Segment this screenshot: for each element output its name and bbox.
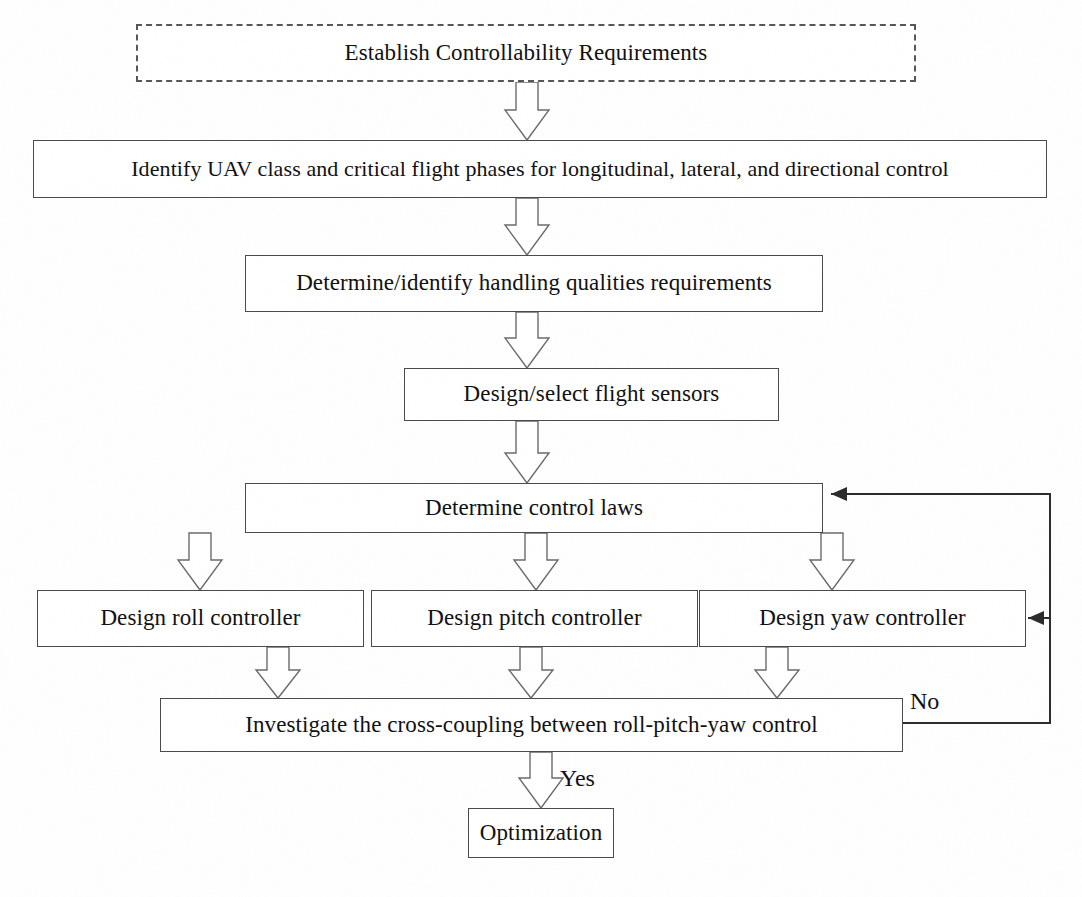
- node-label-identify: Identify UAV class and critical flight p…: [125, 156, 955, 181]
- node-label-investigate: Investigate the cross-coupling between r…: [239, 712, 824, 738]
- arrow-sensors-controllaws: [505, 421, 549, 483]
- node-identify: Identify UAV class and critical flight p…: [33, 140, 1047, 198]
- node-pitch: Design pitch controller: [371, 590, 698, 647]
- node-establish: Establish Controllability Requirements: [136, 24, 916, 82]
- feedback-no-trunk-arrowhead: [831, 487, 847, 501]
- arrow-investigate-optimization: [519, 752, 563, 808]
- node-yaw: Design yaw controller: [699, 590, 1026, 647]
- node-label-handling: Determine/identify handling qualities re…: [290, 270, 778, 296]
- label-no: No: [910, 688, 939, 715]
- node-investigate: Investigate the cross-coupling between r…: [160, 698, 903, 752]
- arrow-establish-identify: [505, 82, 549, 140]
- flowchart-canvas: Establish Controllability RequirementsId…: [0, 0, 1082, 897]
- label-yes: Yes: [560, 765, 595, 792]
- node-label-establish: Establish Controllability Requirements: [339, 40, 714, 66]
- node-control-laws: Determine control laws: [245, 483, 823, 533]
- node-label-control-laws: Determine control laws: [419, 495, 649, 521]
- flowchart-vector-layer: [0, 0, 1082, 897]
- feedback-yaw-branch-arrowhead: [1028, 611, 1044, 625]
- node-handling: Determine/identify handling qualities re…: [245, 255, 823, 312]
- arrow-handling-sensors: [505, 312, 549, 368]
- arrow-controllaws-pitch: [514, 533, 558, 590]
- node-label-sensors: Design/select flight sensors: [458, 381, 726, 407]
- node-label-pitch: Design pitch controller: [421, 605, 647, 631]
- arrow-controllaws-roll: [178, 533, 222, 590]
- arrow-controllaws-yaw: [810, 533, 854, 590]
- arrow-pitch-investigate: [509, 647, 553, 698]
- arrow-identify-handling: [505, 198, 549, 255]
- node-sensors: Design/select flight sensors: [404, 368, 779, 421]
- node-optimization: Optimization: [468, 808, 614, 858]
- node-label-yaw: Design yaw controller: [753, 605, 971, 631]
- arrow-yaw-investigate: [755, 647, 799, 698]
- node-roll: Design roll controller: [37, 590, 364, 647]
- node-label-optimization: Optimization: [474, 820, 609, 846]
- node-label-roll: Design roll controller: [94, 605, 306, 631]
- arrow-roll-investigate: [256, 647, 300, 698]
